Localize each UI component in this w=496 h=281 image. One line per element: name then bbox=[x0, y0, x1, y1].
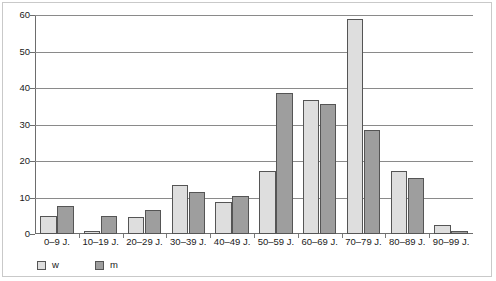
bar-m-8 bbox=[408, 178, 425, 234]
plot-area bbox=[35, 15, 473, 234]
x-tick-mark bbox=[298, 234, 299, 238]
bar-m-0 bbox=[57, 206, 74, 234]
bar-w-8 bbox=[391, 171, 408, 234]
bar-m-2 bbox=[145, 210, 162, 234]
y-tick-label: 30 bbox=[6, 120, 30, 130]
bar-group bbox=[123, 15, 167, 234]
x-tick-label: 10–19 J. bbox=[79, 237, 123, 247]
bar-m-1 bbox=[101, 216, 118, 234]
x-tick-mark bbox=[342, 234, 343, 238]
x-tick-label: 20–29 J. bbox=[123, 237, 167, 247]
y-tick-label: 0 bbox=[6, 229, 30, 239]
legend-item-m: m bbox=[95, 260, 118, 270]
chart-frame: 0102030405060 0–9 J.10–19 J.20–29 J.30–3… bbox=[2, 2, 492, 277]
bar-m-5 bbox=[276, 93, 293, 234]
bar-m-3 bbox=[189, 192, 206, 234]
bar-m-4 bbox=[232, 196, 249, 234]
x-tick-label: 0–9 J. bbox=[35, 237, 79, 247]
x-tick-mark bbox=[210, 234, 211, 238]
y-tick-label: 50 bbox=[6, 47, 30, 57]
y-tick-label: 60 bbox=[6, 10, 30, 20]
x-tick-mark bbox=[123, 234, 124, 238]
bar-group bbox=[79, 15, 123, 234]
legend-item-w: w bbox=[37, 260, 59, 270]
y-tick-label: 40 bbox=[6, 83, 30, 93]
bar-group bbox=[342, 15, 386, 234]
bar-w-2 bbox=[128, 217, 145, 234]
y-axis: 0102030405060 bbox=[3, 15, 30, 234]
bar-group bbox=[298, 15, 342, 234]
legend-swatch-icon bbox=[95, 261, 104, 270]
x-axis: 0–9 J.10–19 J.20–29 J.30–39 J.40–49 J.50… bbox=[35, 234, 473, 254]
bar-m-7 bbox=[364, 130, 381, 234]
legend-label: w bbox=[52, 260, 59, 270]
legend-label: m bbox=[110, 260, 118, 270]
bar-group bbox=[254, 15, 298, 234]
y-tick-label: 20 bbox=[6, 156, 30, 166]
x-tick-label: 90–99 J. bbox=[429, 237, 473, 247]
bar-w-4 bbox=[215, 202, 232, 234]
x-tick-label: 80–89 J. bbox=[385, 237, 429, 247]
bar-w-0 bbox=[40, 216, 57, 234]
bar-w-3 bbox=[172, 185, 189, 234]
x-tick-mark bbox=[254, 234, 255, 238]
bar-w-5 bbox=[259, 171, 276, 234]
bar-group bbox=[429, 15, 473, 234]
chart-legend: wm bbox=[37, 257, 154, 273]
x-tick-mark bbox=[79, 234, 80, 238]
legend-swatch-icon bbox=[37, 261, 46, 270]
bar-w-6 bbox=[303, 100, 320, 234]
bar-group bbox=[385, 15, 429, 234]
bar-w-9 bbox=[434, 225, 451, 234]
x-tick-label: 70–79 J. bbox=[342, 237, 386, 247]
bar-w-7 bbox=[347, 19, 364, 234]
x-tick-label: 40–49 J. bbox=[210, 237, 254, 247]
bar-m-6 bbox=[320, 104, 337, 234]
bar-series-container bbox=[35, 15, 473, 234]
x-tick-label: 60–69 J. bbox=[298, 237, 342, 247]
x-tick-label: 30–39 J. bbox=[166, 237, 210, 247]
y-tick-label: 10 bbox=[6, 193, 30, 203]
x-tick-mark bbox=[385, 234, 386, 238]
bar-group bbox=[210, 15, 254, 234]
bar-group bbox=[166, 15, 210, 234]
bar-group bbox=[35, 15, 79, 234]
x-tick-label: 50–59 J. bbox=[254, 237, 298, 247]
x-tick-mark bbox=[429, 234, 430, 238]
x-tick-mark bbox=[166, 234, 167, 238]
